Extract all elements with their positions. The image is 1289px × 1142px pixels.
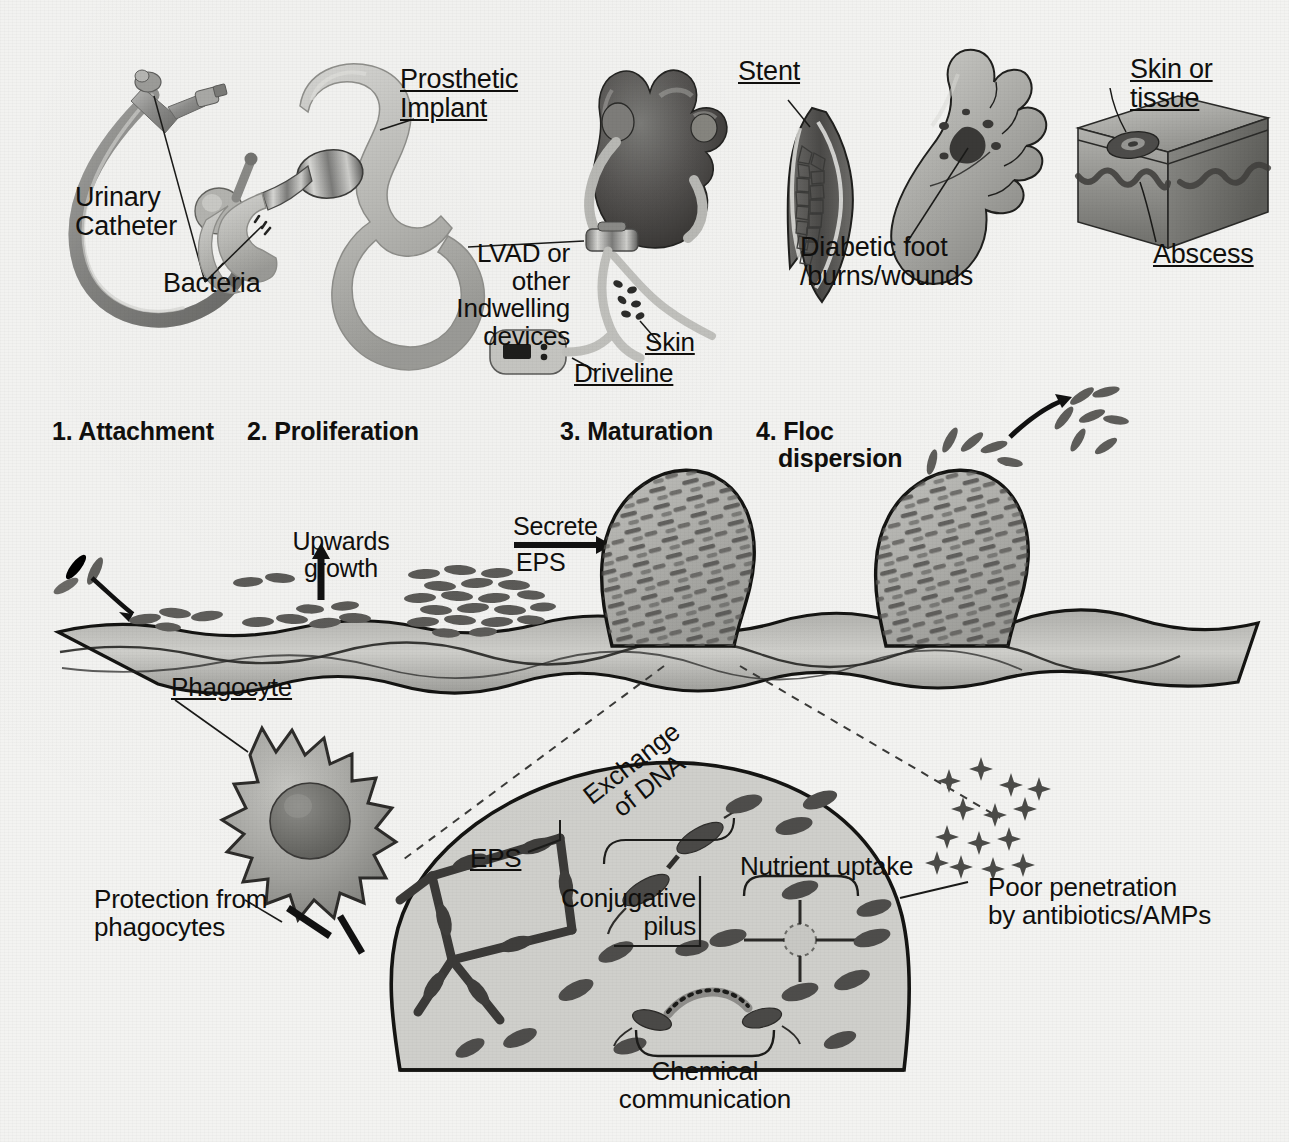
label-diabetic-foot: Diabetic foot /burns/wounds (800, 233, 973, 290)
label-stent: Stent (738, 57, 800, 86)
stage-label-attachment: 1. Attachment (52, 418, 214, 445)
label-eps-secretion: EPS (516, 549, 565, 576)
label-poor-penetration: Poor penetration by antibiotics/AMPs (988, 874, 1211, 929)
label-protection-from-phagocytes: Protection from phagocytes (94, 886, 267, 941)
label-driveline: Driveline (574, 360, 673, 388)
floc-dispersion-mound (876, 384, 1130, 646)
stage-label-floc-dispersion: 4. Floc dispersion (756, 418, 902, 471)
poor-penetration-leader (900, 882, 968, 898)
label-skin-or-tissue: Skin or tissue (1130, 55, 1213, 112)
maturation-biofilm-mound (602, 470, 755, 646)
label-prosthetic-implant: Prosthetic Implant (400, 65, 518, 122)
stage-label-maturation: 3. Maturation (560, 418, 713, 445)
label-skin: Skin (645, 329, 695, 357)
label-lvad-indwelling-devices: LVAD or other Indwelling devices (424, 240, 570, 350)
figure-artwork (0, 0, 1289, 1142)
label-nutrient-uptake: Nutrient uptake (740, 853, 913, 881)
stage-attachment-bacteria (51, 552, 223, 632)
antibiotic-particles (925, 757, 1051, 881)
stage-label-proliferation: 2. Proliferation (247, 418, 419, 445)
figure-canvas: Urinary Catheter Bacteria Prosthetic Imp… (0, 0, 1289, 1142)
label-upwards-growth: Upwards growth (281, 528, 401, 581)
label-urinary-catheter: Urinary Catheter (75, 183, 177, 240)
label-eps-inset: EPS (470, 845, 521, 873)
label-secrete: Secrete (513, 513, 598, 540)
label-conjugative-pilus: Conjugative pilus (528, 885, 696, 940)
label-phagocyte: Phagocyte (171, 674, 292, 702)
label-chemical-communication: Chemical communication (580, 1058, 830, 1113)
label-bacteria: Bacteria (163, 269, 260, 298)
label-abscess: Abscess (1153, 240, 1254, 269)
